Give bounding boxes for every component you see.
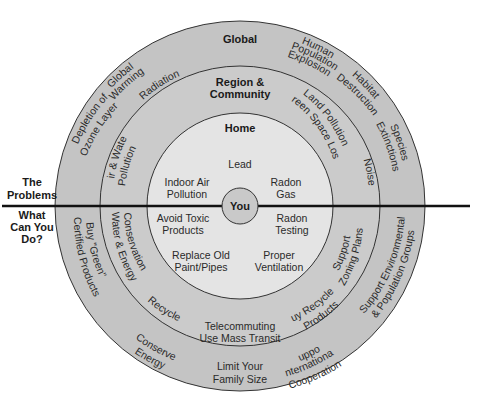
svg-text:Telecommuting: Telecommuting xyxy=(205,320,276,332)
environment-circles-diagram: The Problems What Can You Do? Global Reg… xyxy=(0,0,480,399)
home-problem-indoor-air-pollution: Indoor Air Pollution xyxy=(165,176,210,200)
home-action-radon-testing: Radon Testing xyxy=(275,212,308,236)
home-problem-lead: Lead xyxy=(228,158,252,170)
home-action-avoid-toxic-products: Avoid Toxic Products xyxy=(157,212,210,236)
svg-text:Replace Old: Replace Old xyxy=(172,249,230,261)
svg-text:Indoor Air: Indoor Air xyxy=(165,176,210,188)
svg-text:Products: Products xyxy=(162,224,203,236)
global-title: Global xyxy=(223,33,257,45)
region-community-title: Region & Community xyxy=(210,76,271,100)
home-title: Home xyxy=(225,122,256,134)
svg-text:The: The xyxy=(22,176,42,188)
problems-label: The Problems xyxy=(7,176,57,201)
svg-text:Do?: Do? xyxy=(21,233,43,245)
svg-text:Avoid Toxic: Avoid Toxic xyxy=(157,212,210,224)
svg-text:Problems: Problems xyxy=(7,189,57,201)
home-action-replace-old-paint-pipes: Replace Old Paint/Pipes xyxy=(172,249,230,273)
region-action-telecommuting-mass-transit: Telecommuting Use Mass Transit xyxy=(199,320,280,344)
svg-text:Radon: Radon xyxy=(271,176,302,188)
you-label: You xyxy=(230,200,250,212)
svg-text:Pollution: Pollution xyxy=(167,188,207,200)
svg-text:Can You: Can You xyxy=(10,221,54,233)
svg-text:Region &: Region & xyxy=(216,76,264,88)
svg-text:Community: Community xyxy=(210,88,271,100)
svg-text:What: What xyxy=(19,209,46,221)
svg-text:Ventilation: Ventilation xyxy=(255,261,304,273)
svg-text:Radon: Radon xyxy=(277,212,308,224)
svg-text:Limit Your: Limit Your xyxy=(217,360,264,372)
global-action-limit-family-size: Limit Your Family Size xyxy=(213,360,267,385)
what-can-you-do-label: What Can You Do? xyxy=(10,209,54,245)
svg-text:Use Mass Transit: Use Mass Transit xyxy=(199,332,280,344)
svg-text:Family Size: Family Size xyxy=(213,373,267,385)
svg-text:Paint/Pipes: Paint/Pipes xyxy=(174,261,227,273)
svg-text:Proper: Proper xyxy=(263,249,295,261)
svg-text:Testing: Testing xyxy=(275,224,308,236)
svg-text:Gas: Gas xyxy=(276,188,295,200)
